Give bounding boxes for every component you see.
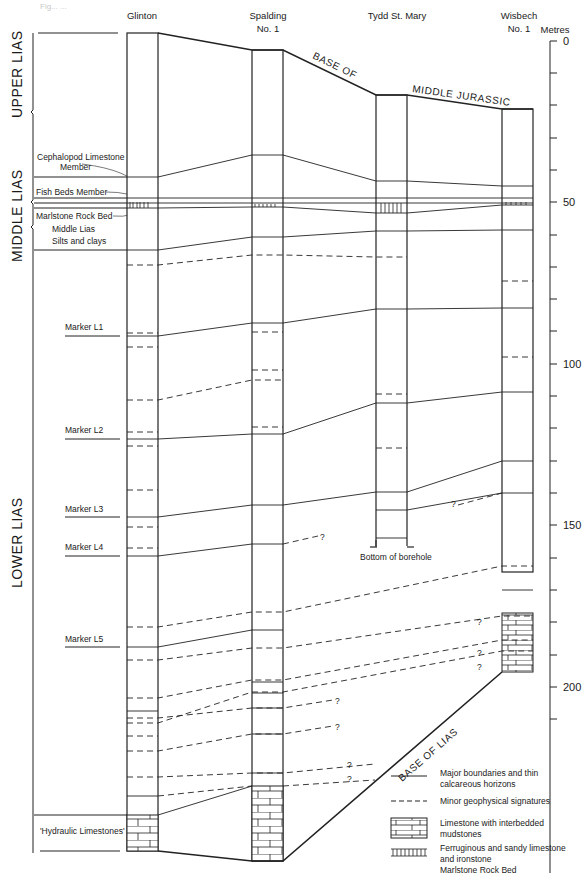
glinton-unit-lines: [34, 177, 127, 815]
borehole-number-wisbech: No. 1: [508, 23, 531, 34]
legend-ironstone-icon: [391, 849, 427, 856]
borehole-columns: [127, 33, 533, 861]
scale-tick-150: 150: [563, 519, 581, 531]
legend-item-ironstone-line2: and ironstone: [440, 854, 492, 864]
legend-item-ironstone-line1: Ferruginous and sandy limestone: [440, 843, 566, 853]
borehole-name-glinton: Glinton: [127, 10, 157, 21]
legend-item-limestone-line2: mudstones: [440, 829, 482, 839]
svg-text:?: ?: [451, 499, 456, 509]
unit-label-marlstone: Marlstone Rock Bed: [36, 211, 113, 221]
major-boundaries: [127, 155, 533, 815]
legend: Major boundaries and thin calcareous hor…: [391, 768, 566, 875]
svg-text:?: ?: [477, 662, 482, 672]
marker-labels: Marker L1 Marker L2 Marker L3 Marker L4 …: [65, 322, 120, 647]
correlation-diagram: Fig... ... Glinton Spalding No. 1 Tydd S…: [0, 0, 586, 882]
unit-label-fish-beds: Fish Beds Member: [36, 187, 107, 197]
marker-label-l5: Marker L5: [65, 634, 104, 644]
svg-text:?: ?: [335, 696, 340, 706]
stage-label-upper-lias: UPPER LIAS: [9, 31, 25, 118]
scale-tick-50: 50: [563, 196, 575, 208]
unit-label-cephalopod-member: Member: [60, 162, 91, 172]
unit-label-hydraulic-limestones: 'Hydraulic Limestones': [40, 826, 125, 836]
svg-text:?: ?: [335, 722, 340, 732]
wisbech-limestone: [502, 613, 533, 672]
legend-item-major-line1: Major boundaries and thin: [440, 768, 539, 778]
column-wisbech: [502, 109, 533, 572]
svg-text:?: ?: [320, 532, 325, 542]
base-of-label: BASE OF: [311, 50, 359, 81]
middle-jurassic-label: MIDDLE JURASSIC: [412, 83, 512, 108]
marker-label-l2: Marker L2: [65, 425, 104, 435]
svg-text:?: ?: [477, 617, 482, 627]
unit-label-silts-clays: Silts and clays: [52, 236, 106, 246]
legend-item-major-line2: calcareous horizons: [440, 779, 516, 789]
depth-scale: Metres 0 50 100 150 200: [540, 24, 581, 873]
glinton-limestone: [127, 815, 158, 851]
borehole-name-tydd: Tydd St. Mary: [368, 10, 427, 21]
legend-limestone-icon: [391, 818, 427, 838]
legend-item-minor: Minor geophysical signatures: [440, 796, 550, 806]
legend-item-limestone-line1: Limestone with interbedded: [440, 818, 544, 828]
borehole-name-wisbech: Wisbech: [501, 10, 537, 21]
borehole-number-spalding: No. 1: [257, 23, 280, 34]
svg-text:?: ?: [477, 648, 482, 658]
spalding-limestone: [252, 786, 283, 861]
svg-text:?: ?: [347, 774, 352, 784]
marker-label-l4: Marker L4: [65, 542, 104, 552]
column-glinton: [127, 33, 158, 851]
stage-label-lower-lias: LOWER LIAS: [9, 497, 25, 588]
marker-label-l1: Marker L1: [65, 322, 104, 332]
bottom-of-borehole-label: Bottom of borehole: [360, 552, 432, 562]
unit-label-cephalopod: Cephalopod Limestone: [37, 152, 125, 162]
scale-tick-0: 0: [563, 35, 569, 47]
scale-unit-label: Metres: [540, 24, 569, 35]
stage-label-middle-lias: MIDDLE LIAS: [9, 169, 25, 262]
minor-geophysical-lines: [127, 255, 533, 796]
figure-title-faint: Fig... ...: [40, 2, 67, 11]
borehole-name-spalding: Spalding: [250, 10, 287, 21]
scale-tick-100: 100: [563, 358, 581, 370]
column-spalding: [252, 50, 283, 861]
column-tydd: [376, 95, 407, 548]
scale-tick-200: 200: [563, 681, 581, 693]
svg-text:?: ?: [347, 760, 352, 770]
legend-item-ironstone-line3: Marlstone Rock Bed: [440, 865, 517, 875]
marker-label-l3: Marker L3: [65, 504, 104, 514]
unit-label-middle-lias: Middle Lias: [52, 224, 95, 234]
